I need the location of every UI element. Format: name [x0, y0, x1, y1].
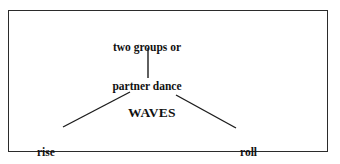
- node-rise-sink: rise sink: [37, 120, 57, 164]
- node-right-line-1: roll: [240, 146, 311, 159]
- node-left-line-1: rise: [37, 146, 57, 159]
- node-center-line-1: WAVES: [0, 106, 304, 119]
- node-top-line-1: two groups or: [0, 41, 294, 54]
- diagram-page: two groups or partner dance WAVES rise s…: [0, 0, 340, 164]
- node-roll-press-upwards: roll press upwards: [240, 120, 311, 164]
